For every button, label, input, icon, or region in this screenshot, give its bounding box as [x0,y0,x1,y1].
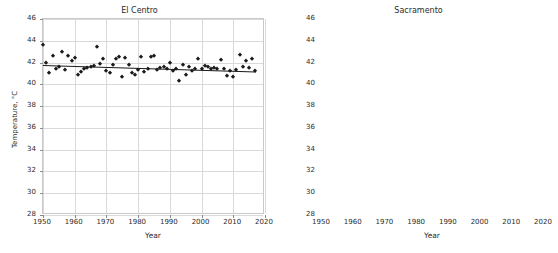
y-tick-label: 44 [16,36,36,44]
data-point [41,43,46,48]
y-axis-label-el-centro: Temperature, °C [11,91,19,148]
gridline-horizontal [43,171,263,172]
y-tick-label: 46 [16,14,36,22]
gridline-horizontal [43,215,263,216]
x-tick-label: 1980 [401,218,431,226]
data-point [152,54,157,59]
gridline-vertical [202,19,203,213]
chart-panel-el-centro: El Centro Year Temperature, °C 283032343… [0,0,279,253]
gridline-horizontal [43,84,263,85]
data-point [225,73,230,78]
data-point [240,65,245,70]
data-point [66,54,71,59]
data-point [50,54,55,59]
data-point [177,79,182,84]
gridline-vertical [170,19,171,213]
y-tick-label: 28 [295,210,315,218]
x-tick-label: 1960 [59,218,89,226]
gridline-vertical [75,19,76,213]
x-tick-label: 1990 [433,218,463,226]
data-point [139,55,144,60]
y-tick-label: 38 [295,101,315,109]
plot-area-el-centro [42,18,264,214]
data-point [180,62,185,67]
gridline-horizontal [43,193,263,194]
gridline-horizontal [43,41,263,42]
y-tick-label: 40 [295,79,315,87]
data-point [247,66,252,71]
data-point [142,70,147,75]
data-point [167,60,172,65]
x-tick-label: 2020 [249,218,279,226]
gridline-horizontal [43,63,263,64]
data-point [123,56,128,61]
data-point [63,68,68,73]
data-point [47,71,52,76]
y-tick-label: 32 [295,166,315,174]
x-tick-label: 1970 [90,218,120,226]
y-tick-label: 34 [16,145,36,153]
y-tick-label: 46 [295,14,315,22]
gridline-horizontal [43,106,263,107]
gridline-horizontal [43,128,263,129]
x-axis-label-el-centro: Year [42,231,264,240]
y-tick-label: 34 [295,145,315,153]
data-point [101,57,106,62]
data-point [107,71,112,76]
data-point [126,62,131,67]
x-axis-label-sacramento: Year [321,231,543,240]
data-point [117,55,122,60]
gridline-vertical [265,19,266,213]
gridline-horizontal [43,19,263,20]
x-tick-label: 1970 [369,218,399,226]
figure: El Centro Year Temperature, °C 283032343… [0,0,558,253]
data-point [231,74,236,79]
x-tick-label: 1950 [306,218,336,226]
x-tick-label: 1960 [338,218,368,226]
data-point [95,45,100,50]
data-point [237,53,242,58]
gridline-vertical [106,19,107,213]
data-point [250,57,255,62]
y-tick-label: 40 [16,79,36,87]
chart-title-sacramento: Sacramento [279,6,558,15]
x-tick-label: 2020 [528,218,558,226]
x-tick-label: 1950 [27,218,57,226]
gridline-vertical [138,19,139,213]
y-tick-label: 36 [16,123,36,131]
gridline-vertical [233,19,234,213]
y-tick-label: 30 [16,188,36,196]
y-tick-label: 44 [295,36,315,44]
chart-title-el-centro: El Centro [0,6,279,15]
y-tick-label: 42 [295,58,315,66]
y-tick-label: 28 [16,210,36,218]
y-tick-label: 30 [295,188,315,196]
y-tick-label: 36 [295,123,315,131]
data-point [120,74,125,79]
x-tick-label: 2010 [217,218,247,226]
x-tick-label: 2010 [496,218,526,226]
data-point [60,49,65,54]
y-tick-label: 38 [16,101,36,109]
data-point [196,57,201,62]
y-tick-label: 42 [16,58,36,66]
x-tick-label: 2000 [186,218,216,226]
data-point [133,72,138,77]
chart-panel-sacramento: Sacramento Year 283032343638404244461950… [279,0,558,253]
data-point [183,72,188,77]
gridline-vertical [43,19,44,213]
gridline-horizontal [43,150,263,151]
x-tick-label: 1980 [122,218,152,226]
x-tick-label: 1990 [154,218,184,226]
x-tick-label: 2000 [465,218,495,226]
y-tick-label: 32 [16,166,36,174]
